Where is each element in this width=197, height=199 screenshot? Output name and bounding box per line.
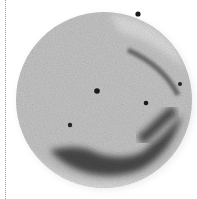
specimen-photo — [0, 0, 197, 199]
